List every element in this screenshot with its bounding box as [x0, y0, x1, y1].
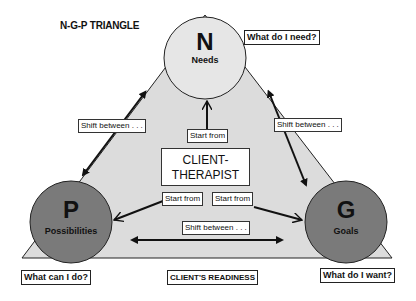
- needs-label: Needs: [175, 55, 235, 65]
- needs-question: What do I need?: [244, 30, 320, 45]
- start-label-top: Start from: [187, 129, 228, 143]
- client-therapist-box: CLIENT- THERAPIST: [161, 148, 250, 186]
- clients-readiness-label: CLIENT'S READINESS: [167, 270, 258, 285]
- shift-label-bottom: Shift between . . .: [182, 221, 250, 235]
- goals-letter: G: [326, 198, 366, 222]
- goals-label: Goals: [316, 226, 376, 236]
- possibilities-label: Possibilities: [36, 226, 106, 236]
- start-label-left: Start from: [162, 192, 203, 206]
- possibilities-question: What can I do?: [21, 270, 91, 285]
- center-line2: THERAPIST: [162, 168, 249, 183]
- center-line1: CLIENT-: [162, 153, 249, 168]
- shift-label-right: Shift between . . .: [274, 118, 342, 132]
- possibilities-letter: P: [51, 198, 91, 222]
- diagram-title: N-G-P TRIANGLE: [60, 20, 139, 31]
- start-label-right: Start from: [212, 192, 253, 206]
- shift-label-left: Shift between . . .: [78, 119, 146, 133]
- goals-question: What do I want?: [320, 268, 395, 283]
- needs-letter: N: [185, 30, 225, 54]
